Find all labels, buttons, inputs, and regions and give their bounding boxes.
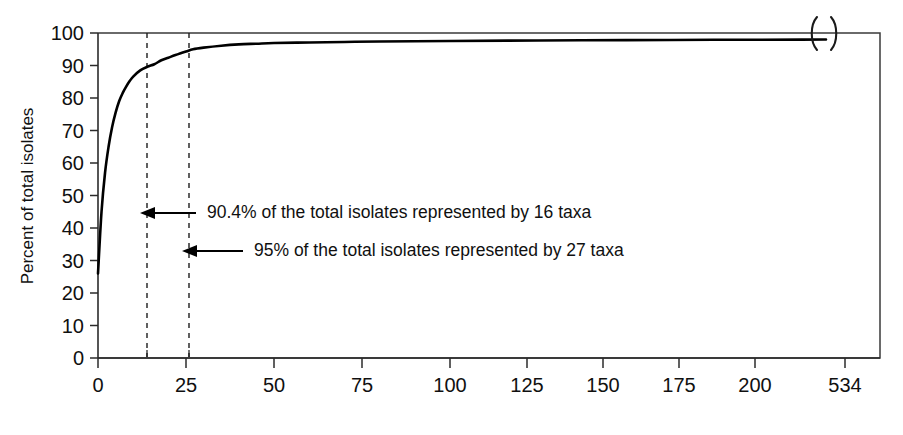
y-tick-label-40: 40 (62, 217, 84, 239)
annotation-95-percent: 95% of the total isolates represented by… (182, 240, 624, 260)
annotation-90-4-text: 90.4% of the total isolates represented … (207, 202, 592, 222)
x-axis-ticks (98, 358, 845, 368)
x-tick-label-534: 534 (828, 374, 861, 396)
y-tick-label-0: 0 (73, 347, 84, 369)
x-tick-label-0: 0 (92, 374, 103, 396)
data-series-cumulative-isolates (98, 40, 826, 274)
x-tick-label-125: 125 (510, 374, 543, 396)
annotation-95-text: 95% of the total isolates represented by… (254, 240, 624, 260)
x-tick-label-200: 200 (738, 374, 771, 396)
reference-lines (147, 33, 189, 357)
annotation-90-4-percent: 90.4% of the total isolates represented … (140, 202, 592, 222)
x-tick-label-50: 50 (263, 374, 285, 396)
x-axis-tick-labels: 0 25 50 75 100 125 150 175 200 534 (92, 374, 861, 396)
y-tick-label-10: 10 (62, 315, 84, 337)
curve-line (98, 40, 826, 274)
x-tick-label-100: 100 (433, 374, 466, 396)
y-tick-label-80: 80 (62, 87, 84, 109)
y-axis-ticks (90, 33, 98, 358)
y-axis-tick-labels: 0 10 20 30 40 50 60 70 80 90 100 (51, 22, 84, 369)
y-axis-title: Percent of total isolates (18, 108, 37, 285)
x-tick-label-75: 75 (351, 374, 373, 396)
y-tick-label-20: 20 (62, 282, 84, 304)
y-tick-label-30: 30 (62, 250, 84, 272)
plot-frame (98, 33, 880, 358)
y-tick-label-100: 100 (51, 22, 84, 44)
y-tick-label-60: 60 (62, 152, 84, 174)
x-axis-minor-ticks (147, 350, 189, 357)
frame-border (98, 33, 880, 358)
y-tick-label-90: 90 (62, 55, 84, 77)
y-tick-label-70: 70 (62, 120, 84, 142)
x-tick-label-150: 150 (586, 374, 619, 396)
chart-container: 0 10 20 30 40 50 60 70 80 90 100 (0, 0, 903, 435)
cumulative-isolates-chart: 0 10 20 30 40 50 60 70 80 90 100 (0, 0, 903, 435)
x-tick-label-25: 25 (175, 374, 197, 396)
x-tick-label-175: 175 (662, 374, 695, 396)
y-tick-label-50: 50 (62, 185, 84, 207)
